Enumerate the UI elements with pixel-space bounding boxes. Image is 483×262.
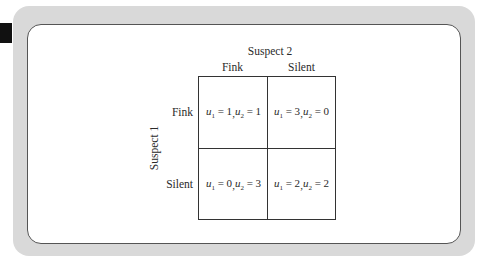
payoff-matrix: u1 = 1, u2 = 1 u1 = 3, u2 = 0 u1 = 0, u2… xyxy=(198,76,336,220)
player1-label: Suspect 1 xyxy=(148,118,160,178)
column-header-silent: Silent xyxy=(267,61,336,73)
payoff-cell: u1 = 3, u2 = 0 xyxy=(267,77,336,149)
row-header-silent: Silent xyxy=(150,178,193,190)
edge-tab xyxy=(0,23,12,43)
payoff-cell: u1 = 1, u2 = 1 xyxy=(199,77,268,149)
payoff-cell: u1 = 0, u2 = 3 xyxy=(199,149,268,221)
payoff-cell: u1 = 2, u2 = 2 xyxy=(267,149,336,221)
column-header-fink: Fink xyxy=(198,61,267,73)
row-header-fink: Fink xyxy=(150,106,193,118)
player2-label: Suspect 2 xyxy=(230,45,310,57)
